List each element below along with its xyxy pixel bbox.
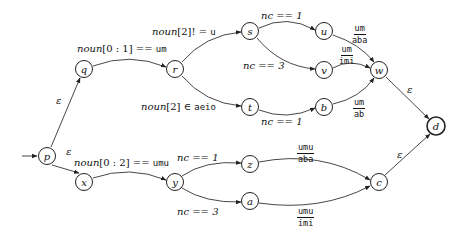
node-q-label: q xyxy=(74,59,94,79)
edge-z-c xyxy=(259,159,370,180)
edge-p-q xyxy=(51,78,80,147)
edge-y-a xyxy=(182,188,241,202)
node-r-label: r xyxy=(165,59,185,79)
edge-label-x-y: noun[0 : 2] == umu xyxy=(74,158,169,168)
edge-label-b-w: umab xyxy=(353,98,365,118)
node-y-label: y xyxy=(165,172,185,192)
edge-label-c-d: ε xyxy=(397,150,402,160)
node-z-label: z xyxy=(240,154,260,174)
edge-label-z-c: umuaba xyxy=(297,143,314,163)
edge-label-y-z: nc == 1 xyxy=(177,153,219,163)
node-w-label: w xyxy=(369,60,389,80)
edge-label-r-s: noun[2]! = u xyxy=(152,27,216,37)
node-d-label: d xyxy=(426,116,446,136)
edge-c-d xyxy=(385,134,430,175)
edge-label-u-w: umaba xyxy=(352,24,367,44)
edge-t-b xyxy=(259,108,315,115)
node-s-label: s xyxy=(240,21,260,41)
edge-label-s-u: nc == 1 xyxy=(261,11,303,21)
edge-a-c xyxy=(259,186,370,205)
edge-label-p-x: ε xyxy=(66,147,71,157)
edge-y-z xyxy=(182,163,241,176)
edge-label-q-r: noun[0 : 1] == um xyxy=(77,44,167,54)
node-b-label: b xyxy=(314,97,334,117)
edge-label-v-w: umimi xyxy=(339,45,354,65)
node-u-label: u xyxy=(314,21,334,41)
diagram-edges xyxy=(0,0,466,234)
node-x-label: x xyxy=(74,172,94,192)
edge-label-s-v: nc == 3 xyxy=(243,61,285,71)
edge-x-y xyxy=(93,172,166,180)
edge-s-u xyxy=(259,21,315,30)
edge-label-y-a: nc == 3 xyxy=(177,207,219,217)
edge-label-r-t: noun[2] ∈ aeio xyxy=(141,102,216,112)
automaton-diagram: p q r s t u v b w d x y z a c ε ε ε ε no… xyxy=(0,0,466,234)
edge-label-w-d: ε xyxy=(407,85,412,95)
edge-label-p-q: ε xyxy=(56,96,61,106)
edge-label-t-b: nc == 1 xyxy=(261,117,303,127)
node-p-label: p xyxy=(37,146,57,166)
node-t-label: t xyxy=(240,97,260,117)
node-a-label: a xyxy=(240,191,260,211)
edge-q-r xyxy=(93,59,166,67)
node-c-label: c xyxy=(369,172,389,192)
node-v-label: v xyxy=(314,60,334,80)
edge-label-a-c: umuimi xyxy=(297,207,314,227)
